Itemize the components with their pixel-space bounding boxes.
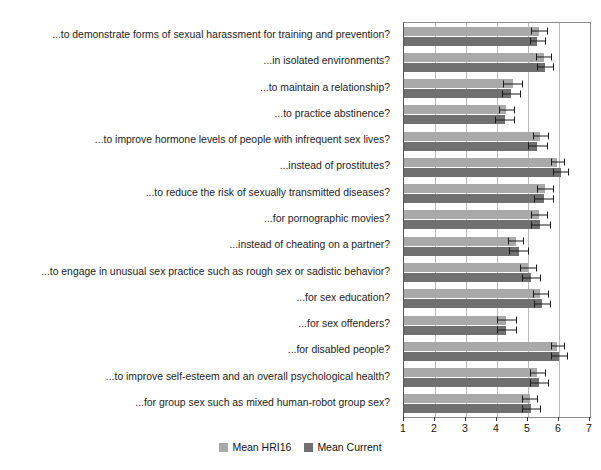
bar-series-hri16 <box>404 394 530 403</box>
category-label: ...in isolated environments? <box>264 55 391 67</box>
bar-series-current <box>404 247 519 256</box>
bar-group <box>404 233 590 259</box>
error-bar-cap <box>523 238 524 245</box>
error-bar-cap <box>522 274 523 281</box>
error-bar-line <box>537 188 553 189</box>
bar-series-hri16 <box>404 158 557 167</box>
bar-series-hri16 <box>404 27 539 36</box>
error-bar-cap <box>502 90 503 97</box>
error-bar-line <box>520 267 536 268</box>
error-bar-cap <box>536 264 537 271</box>
error-bar-cap <box>508 238 509 245</box>
bar-series-hri16 <box>404 210 539 219</box>
legend-label: Mean HRI16 <box>232 441 291 453</box>
error-bar-cap <box>548 133 549 140</box>
bar-group <box>404 23 590 49</box>
bar-series-current <box>404 194 544 203</box>
bar-row <box>404 404 590 413</box>
bar-group <box>404 286 590 312</box>
error-bar-cap <box>553 169 554 176</box>
bar-row <box>404 27 590 36</box>
error-bar-line <box>530 382 549 383</box>
legend-label: Mean Current <box>317 441 381 453</box>
x-tick-label: 1 <box>400 422 406 434</box>
error-bar-line <box>522 277 541 278</box>
error-bar-cap <box>551 353 552 360</box>
bar-group <box>404 364 590 390</box>
error-bar-cap <box>568 169 569 176</box>
error-bar-cap <box>520 90 521 97</box>
x-tick-label: 5 <box>524 422 530 434</box>
error-bar-line <box>531 214 547 215</box>
x-tick-mark <box>465 417 466 421</box>
x-tick-mark <box>558 417 559 421</box>
error-bar-cap <box>534 195 535 202</box>
bar-row <box>404 352 590 361</box>
bar-group <box>404 207 590 233</box>
error-bar-line <box>508 241 524 242</box>
bar-row <box>404 63 590 72</box>
x-tick-mark <box>527 417 528 421</box>
bar-series-current <box>404 142 537 151</box>
error-bar-line <box>551 356 567 357</box>
error-bar-cap <box>545 38 546 45</box>
error-bar-line <box>553 172 569 173</box>
error-bar-cap <box>531 221 532 228</box>
error-bar-cap <box>497 317 498 324</box>
category-label-row: ...for group sex such as mixed human-rob… <box>0 390 396 416</box>
x-tick-label: 3 <box>462 422 468 434</box>
bar-series-hri16 <box>404 79 513 88</box>
error-bar-cap <box>528 248 529 255</box>
bar-row <box>404 53 590 62</box>
bar-row <box>404 378 590 387</box>
bar-series-current <box>404 63 545 72</box>
error-bar-cap <box>551 54 552 61</box>
bar-row <box>404 194 590 203</box>
bar-row <box>404 37 590 46</box>
bar-group <box>404 181 590 207</box>
bar-row <box>404 289 590 298</box>
bar-group <box>404 338 590 364</box>
bar-series-current <box>404 404 531 413</box>
bar-series-hri16 <box>404 237 516 246</box>
bar-series-hri16 <box>404 342 557 351</box>
error-bar-cap <box>537 185 538 192</box>
category-label-row: ...for sex offenders? <box>0 311 396 337</box>
error-bar-line <box>533 293 549 294</box>
category-label-row: ...for sex education? <box>0 285 396 311</box>
error-bar-cap <box>520 264 521 271</box>
bar-row <box>404 105 590 114</box>
bar-series-hri16 <box>404 289 540 298</box>
error-bar-line <box>502 93 521 94</box>
error-bar-cap <box>537 64 538 71</box>
error-bar-cap <box>534 300 535 307</box>
category-label: ...instead of prostitutes? <box>280 160 390 172</box>
error-bar-cap <box>522 80 523 87</box>
legend-item: Mean Current <box>304 441 381 453</box>
error-bar-line <box>497 320 516 321</box>
bar-series-current <box>404 352 559 361</box>
error-bar-line <box>534 303 550 304</box>
error-bar-line <box>503 83 522 84</box>
error-bar-line <box>495 119 514 120</box>
error-bar-cap <box>533 133 534 140</box>
bar-row <box>404 368 590 377</box>
chart-legend: Mean HRI16Mean Current <box>0 441 601 453</box>
error-bar-cap <box>528 143 529 150</box>
bar-row <box>404 132 590 141</box>
category-label: ...to improve hormone levels of people w… <box>95 134 390 146</box>
error-bar-cap <box>536 54 537 61</box>
bar-row <box>404 184 590 193</box>
error-bar-cap <box>550 300 551 307</box>
x-tick-label: 6 <box>555 422 561 434</box>
error-bar-line <box>531 224 550 225</box>
bar-row <box>404 247 590 256</box>
error-bar-cap <box>537 395 538 402</box>
error-bar-cap <box>553 185 554 192</box>
x-tick-mark <box>496 417 497 421</box>
plot-area <box>403 22 591 418</box>
category-label: ...instead of cheating on a partner? <box>229 239 390 251</box>
bar-row <box>404 237 590 246</box>
category-label: ...for sex education? <box>296 292 390 304</box>
category-label: ...for group sex such as mixed human-rob… <box>135 397 390 409</box>
